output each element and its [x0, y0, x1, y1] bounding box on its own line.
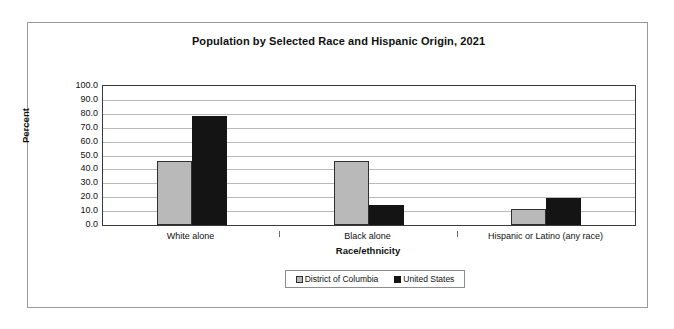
y-axis-tick-label: 10.0 [80, 205, 98, 215]
bar [334, 161, 369, 225]
x-axis-category-labels: White aloneBlack aloneHispanic or Latino… [102, 231, 634, 245]
chart-legend: District of ColumbiaUnited States [285, 270, 465, 288]
gridline [103, 114, 635, 115]
y-axis-tick-label: 30.0 [80, 177, 98, 187]
x-axis-category-label: Black alone [279, 231, 456, 241]
bar [192, 116, 227, 225]
gridline [103, 100, 635, 101]
y-axis-tick-label: 60.0 [80, 136, 98, 146]
bar [511, 209, 546, 225]
y-axis-tick-label: 50.0 [80, 150, 98, 160]
x-axis-category-label: Hispanic or Latino (any race) [457, 231, 634, 241]
legend-swatch-icon [394, 276, 401, 283]
legend-label: United States [403, 274, 454, 284]
y-axis-title: Percent [20, 108, 31, 143]
bar [369, 205, 404, 225]
chart-frame: Population by Selected Race and Hispanic… [27, 22, 648, 308]
x-axis-category-label: White alone [102, 231, 279, 241]
x-axis-title: Race/ethnicity [102, 245, 634, 256]
plot-area [102, 85, 636, 226]
y-axis-tick-label: 40.0 [80, 163, 98, 173]
legend-label: District of Columbia [305, 274, 379, 284]
y-axis-tick-label: 80.0 [80, 108, 98, 118]
y-axis-tick-label: 20.0 [80, 191, 98, 201]
legend-swatch-icon [296, 276, 303, 283]
legend-entry: District of Columbia [296, 274, 379, 284]
gridline [103, 142, 635, 143]
chart-title: Population by Selected Race and Hispanic… [28, 35, 649, 47]
gridline [103, 156, 635, 157]
y-axis-tick-label: 90.0 [80, 94, 98, 104]
legend-entry: United States [394, 274, 454, 284]
gridline [103, 128, 635, 129]
y-axis-tick-label: 100.0 [75, 80, 98, 90]
y-axis-tick-label: 0.0 [85, 219, 98, 229]
y-axis-tick-label: 70.0 [80, 122, 98, 132]
y-axis-tick-labels: 100.090.080.070.060.050.040.030.020.010.… [54, 79, 98, 230]
bar [546, 198, 581, 225]
bar [157, 161, 192, 225]
